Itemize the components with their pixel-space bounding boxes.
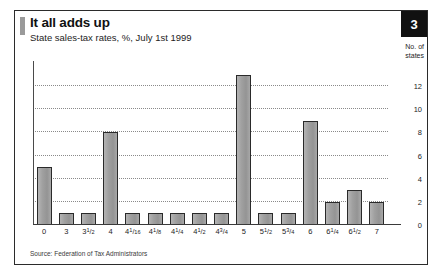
y-axis-tick-label: 10 xyxy=(414,105,422,114)
bar-slot xyxy=(33,63,55,225)
x-axis-tick-label: 31/2 xyxy=(77,227,99,241)
bar-slot xyxy=(166,63,188,225)
x-axis-baseline xyxy=(33,224,401,225)
x-axis-tick-label: 61/2 xyxy=(344,227,366,241)
chart-subtitle: State sales-tax rates, %, July 1st 1999 xyxy=(30,32,192,44)
y-axis-tick-label: 12 xyxy=(414,82,422,91)
y-axis-caption-line2: states xyxy=(390,52,424,61)
y-axis-tick-labels: 024681012 xyxy=(390,63,426,225)
bar[interactable] xyxy=(37,167,52,225)
y-axis-tick-label: 6 xyxy=(418,151,422,160)
x-axis-tick-label: 7 xyxy=(366,227,388,241)
bar-slot xyxy=(77,63,99,225)
bar-slot xyxy=(366,63,388,225)
bar-slot xyxy=(277,63,299,225)
chart-number-badge: 3 xyxy=(401,11,427,37)
bar[interactable] xyxy=(103,132,118,225)
bar[interactable] xyxy=(369,202,384,225)
x-axis-tick-label: 5 xyxy=(233,227,255,241)
x-axis-tick-label: 53/4 xyxy=(277,227,299,241)
y-axis-caption: No. of states xyxy=(390,43,424,60)
x-axis-tick-label: 43/4 xyxy=(211,227,233,241)
chart-header: It all adds up State sales-tax rates, %,… xyxy=(15,11,427,57)
bars-group xyxy=(33,63,388,225)
bar-slot xyxy=(211,63,233,225)
x-axis-tick-label: 51/2 xyxy=(255,227,277,241)
bar[interactable] xyxy=(347,190,362,225)
bar-slot xyxy=(233,63,255,225)
bar-slot xyxy=(344,63,366,225)
bar-slot xyxy=(144,63,166,225)
bar[interactable] xyxy=(236,75,251,225)
x-axis-tick-label: 6 xyxy=(299,227,321,241)
bar-slot xyxy=(122,63,144,225)
bar-slot xyxy=(188,63,210,225)
bar[interactable] xyxy=(303,121,318,225)
x-axis-tick-labels: 0331/2441/1641/841/441/243/4551/253/4661… xyxy=(33,227,388,241)
x-axis-tick-label: 41/4 xyxy=(166,227,188,241)
y-axis-tick-label: 0 xyxy=(418,221,422,230)
y-axis-tick-label: 4 xyxy=(418,174,422,183)
plot-area xyxy=(33,63,388,225)
y-axis-caption-line1: No. of xyxy=(390,43,424,52)
bar-slot xyxy=(299,63,321,225)
plot-canvas xyxy=(33,63,388,225)
source-note: Source: Federation of Tax Administrators xyxy=(30,250,147,257)
bar-slot xyxy=(100,63,122,225)
x-axis-tick-label: 41/2 xyxy=(188,227,210,241)
title-accent-bar xyxy=(20,17,25,35)
chart-figure: It all adds up State sales-tax rates, %,… xyxy=(0,0,443,279)
bar-slot xyxy=(55,63,77,225)
page-title: It all adds up xyxy=(30,15,110,31)
x-axis-tick-label: 41/8 xyxy=(144,227,166,241)
bar[interactable] xyxy=(325,202,340,225)
bar-slot xyxy=(255,63,277,225)
y-axis-tick-label: 8 xyxy=(418,128,422,137)
x-axis-tick-label: 41/16 xyxy=(122,227,144,241)
bar-slot xyxy=(321,63,343,225)
x-axis-tick-label: 61/4 xyxy=(321,227,343,241)
chart-frame: It all adds up State sales-tax rates, %,… xyxy=(14,10,428,265)
y-axis-tick-label: 2 xyxy=(418,197,422,206)
x-axis-tick-label: 4 xyxy=(100,227,122,241)
x-axis-tick-label: 3 xyxy=(55,227,77,241)
x-axis-tick-label: 0 xyxy=(33,227,55,241)
